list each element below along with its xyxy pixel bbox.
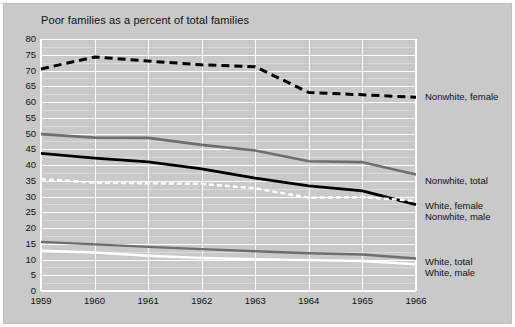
legend-label-nonwhite-male: Nonwhite, male	[425, 211, 490, 223]
y-tick-label: 35	[13, 176, 36, 185]
y-tick-label: 15	[13, 239, 36, 248]
y-tick-label: 40	[13, 160, 36, 169]
y-tick-label: 25	[13, 207, 36, 216]
legend-label-white-total: White, total	[425, 256, 473, 268]
x-tick-label: 1963	[235, 295, 275, 306]
y-tick-label: 5	[13, 270, 36, 279]
chart-title: Poor families as a percent of total fami…	[41, 14, 249, 26]
y-tick-label: 70	[13, 66, 36, 75]
y-tick-label: 55	[13, 113, 36, 122]
series-line	[41, 242, 416, 259]
plot-area	[41, 39, 416, 291]
y-tick-label: 80	[13, 34, 36, 43]
legend-label-white-female: White, female	[425, 200, 483, 212]
series-line	[41, 134, 416, 174]
y-tick-label: 30	[13, 192, 36, 201]
y-tick-label: 20	[13, 223, 36, 232]
series-line	[41, 251, 416, 265]
x-tick-label: 1964	[289, 295, 329, 306]
legend-label-white-male: White, male	[425, 267, 475, 279]
series-line	[41, 57, 416, 97]
y-tick-label: 45	[13, 144, 36, 153]
legend-label-nonwhite-female: Nonwhite, female	[425, 91, 498, 103]
y-tick-label: 65	[13, 81, 36, 90]
y-tick-label: 0	[13, 286, 36, 295]
gridline-vertical	[416, 39, 417, 291]
x-tick-label: 1966	[396, 295, 436, 306]
x-tick-label: 1962	[182, 295, 222, 306]
y-tick-label: 50	[13, 129, 36, 138]
y-tick-label: 10	[13, 255, 36, 264]
y-tick-label: 60	[13, 97, 36, 106]
legend-label-nonwhite-total: Nonwhite, total	[425, 175, 488, 187]
x-tick-label: 1960	[75, 295, 115, 306]
gridline-horizontal	[41, 291, 416, 292]
y-tick-label: 75	[13, 50, 36, 59]
x-tick-label: 1965	[342, 295, 382, 306]
chart-figure: Poor families as a percent of total fami…	[0, 0, 515, 327]
x-tick-label: 1959	[21, 295, 61, 306]
series-lines	[41, 39, 416, 291]
x-tick-label: 1961	[128, 295, 168, 306]
